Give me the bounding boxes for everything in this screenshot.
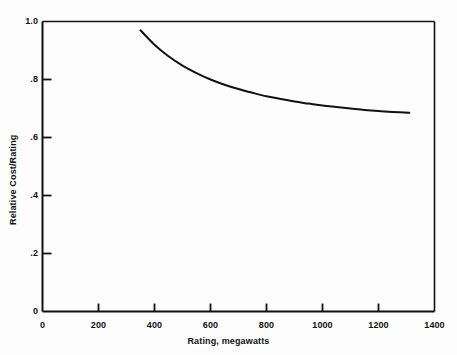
axis-lines — [43, 22, 435, 312]
data-series-line — [141, 30, 410, 113]
y-axis-title: Relative Cost/Rating — [8, 134, 18, 225]
x-tick-label-600: 600 — [190, 320, 231, 330]
x-axis-title: Rating, megawatts — [0, 336, 457, 346]
x-tick-label-0: 0 — [22, 320, 63, 330]
x-tick-label-800: 800 — [246, 320, 287, 330]
y-tick-label-0.2: .2 — [10, 248, 38, 258]
x-tick-label-1000: 1000 — [302, 320, 343, 330]
y-axis-ticks — [43, 80, 52, 254]
y-tick-label-0.8: .8 — [10, 74, 38, 84]
x-tick-label-1400: 1400 — [414, 320, 455, 330]
x-tick-label-1200: 1200 — [358, 320, 399, 330]
y-tick-label-0: 0 — [10, 306, 38, 316]
y-tick-label-1.0: 1.0 — [10, 16, 38, 26]
chart-figure: 1.0 .8 .6 .4 .2 0 0 200 400 600 800 1000… — [0, 0, 457, 355]
x-axis-ticks — [99, 304, 379, 312]
x-tick-label-400: 400 — [134, 320, 175, 330]
x-tick-label-200: 200 — [78, 320, 119, 330]
plot-canvas — [0, 0, 457, 355]
